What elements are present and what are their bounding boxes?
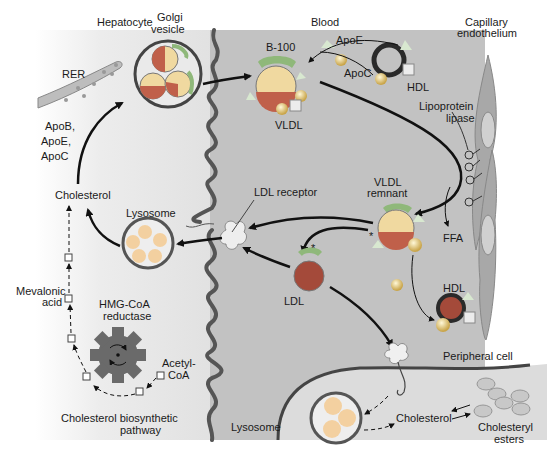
label-cholesterol-hepatocyte: Cholesterol xyxy=(55,189,111,201)
label-hmg-2: reductase xyxy=(103,310,151,322)
label-cholesterol-peripheral: Cholesterol xyxy=(396,412,452,424)
label-acetyl-2: CoA xyxy=(168,369,190,381)
label-ldl-receptor: LDL receptor xyxy=(254,186,318,198)
label-ldl: LDL xyxy=(284,295,304,307)
region-blood: Blood xyxy=(311,16,339,28)
label-rer: RER xyxy=(62,68,85,80)
asterisk-ldl: * xyxy=(311,242,316,254)
label-lysosome-peripheral: Lysosome xyxy=(231,421,281,433)
label-mevalonic-2: acid xyxy=(42,296,62,308)
apo-ball-free xyxy=(391,279,403,291)
region-hepatocyte: Hepatocyte xyxy=(97,16,153,28)
label-biosynth-1: Cholesterol biosynthetic xyxy=(61,412,178,424)
label-apoc: ApoC xyxy=(344,67,372,79)
region-peripheral-cell: Peripheral cell xyxy=(443,350,513,362)
label-esters-2: esters xyxy=(494,433,524,445)
label-lpl-1: Lipoprotein xyxy=(419,100,473,112)
label-golgi-2: vesicle xyxy=(151,23,185,35)
label-apoe: ApoE xyxy=(336,34,363,46)
label-vldl: VLDL xyxy=(275,119,303,131)
golgi-vesicle xyxy=(135,41,201,107)
label-golgi-1: Golgi xyxy=(157,11,183,23)
label-hmg-1: HMG-CoA xyxy=(99,298,150,310)
label-apoc-list: ApoC xyxy=(41,150,69,162)
label-b100: B-100 xyxy=(266,41,295,53)
label-biosynth-2: pathway xyxy=(120,424,161,436)
asterisk-remnant: * xyxy=(369,230,374,242)
label-apoe-list: ApoE, xyxy=(41,135,71,147)
label-ffa: FFA xyxy=(443,232,464,244)
lysosome-hepatocyte xyxy=(123,218,173,268)
label-hdl-bottom: HDL xyxy=(443,282,465,294)
label-esters-1: Cholesteryl xyxy=(478,421,533,433)
label-hdl-top: HDL xyxy=(407,81,429,93)
lysosome-peripheral xyxy=(311,393,361,443)
label-vldl-remnant-2: remnant xyxy=(367,187,407,199)
diagram-canvas: RER Golgi vesicle Hepatocyte Blood Capil… xyxy=(0,0,547,457)
lipoprotein-metabolism-diagram: RER Golgi vesicle Hepatocyte Blood Capil… xyxy=(0,0,547,457)
label-apob: ApoB, xyxy=(45,120,75,132)
label-acetyl-1: Acetyl- xyxy=(162,357,196,369)
region-capillary-2: endothelium xyxy=(457,27,517,39)
hmg-coa-reductase-gear xyxy=(90,327,146,383)
label-lpl-2: lipase xyxy=(446,112,475,124)
